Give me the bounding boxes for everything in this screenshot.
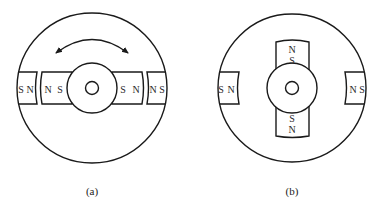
pole-label: S xyxy=(120,84,126,95)
pole-label: S xyxy=(18,84,24,95)
pole-label: S xyxy=(289,113,295,124)
pole-label: N xyxy=(288,44,295,55)
rotation-arrow-icon xyxy=(56,40,128,54)
pole-label: N xyxy=(44,84,51,95)
pole-label: N xyxy=(227,84,234,95)
rotor-circle xyxy=(267,63,317,113)
pole-label: S xyxy=(289,55,295,66)
pole-label: S xyxy=(218,84,224,95)
pole-label: S xyxy=(57,84,63,95)
pole-label: N xyxy=(288,124,295,135)
pole-label: S xyxy=(359,84,365,95)
pole-label: N xyxy=(149,84,156,95)
motor-diagram: S N N S S N N S (a) S N N S N S S N ( xyxy=(0,0,376,212)
pole-label: N xyxy=(26,84,33,95)
figure-a: S N N S S N N S (a) xyxy=(10,13,174,198)
pole-label: N xyxy=(132,84,139,95)
pole-label: N xyxy=(349,84,356,95)
caption-a: (a) xyxy=(86,185,99,198)
stator-magnet-left xyxy=(210,72,239,104)
caption-b: (b) xyxy=(286,185,299,198)
figure-b: S N N S N S S N (b) xyxy=(210,14,374,198)
rotor-circle xyxy=(67,63,117,113)
pole-label: S xyxy=(159,84,165,95)
